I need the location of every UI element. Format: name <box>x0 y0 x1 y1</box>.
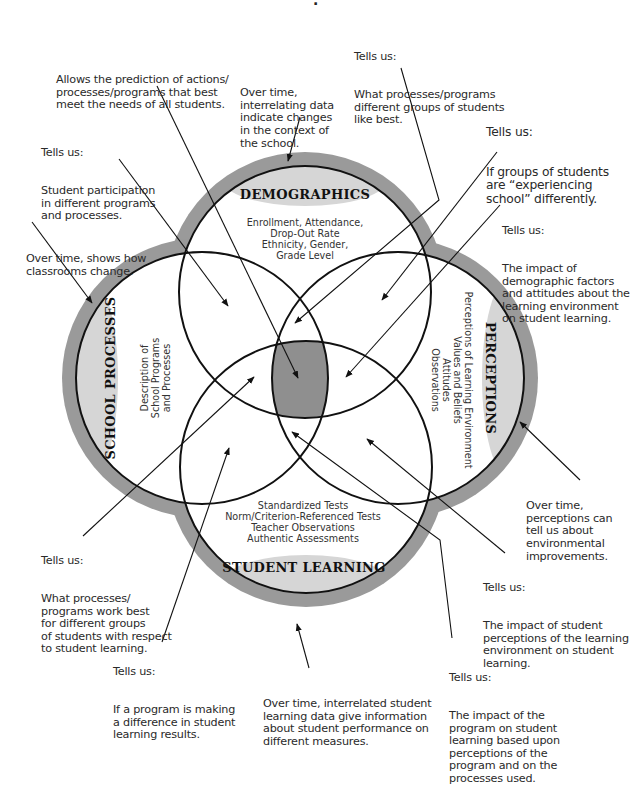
svg-text:Teacher Observations: Teacher Observations <box>250 522 355 533</box>
annotation-program-impact: Tells us: The impact of the program on s… <box>449 647 560 788</box>
svg-text:and Processes: and Processes <box>161 344 172 412</box>
svg-text:Description of: Description of <box>139 344 150 412</box>
svg-text:Enrollment, Attendance,: Enrollment, Attendance, <box>247 217 363 228</box>
annotation-program-difference: Tells us: If a program is making a diffe… <box>113 641 235 754</box>
svg-text:Values and Beliefs: Values and Beliefs <box>452 336 463 424</box>
svg-text:Standardized Tests: Standardized Tests <box>258 500 348 511</box>
svg-text:Authentic Assessments: Authentic Assessments <box>247 533 359 544</box>
annotation-programs-liked: Tells us: What processes/programs differ… <box>354 26 504 139</box>
school-processes-title: SCHOOL PROCESSES <box>103 296 118 459</box>
svg-text:Attitudes: Attitudes <box>441 358 452 401</box>
svg-text:Perceptions of Learning Enviro: Perceptions of Learning Environment <box>463 291 474 468</box>
annotation-classrooms-change: Over time, shows how classrooms change. <box>26 228 146 291</box>
svg-text:Drop-Out Rate: Drop-Out Rate <box>270 228 339 239</box>
arrow-perceptions-over-time <box>520 422 580 480</box>
school-processes-body: Description of School Programs and Proce… <box>139 338 172 418</box>
arrow-learning-over-time <box>297 624 309 668</box>
annotation-participation: Tells us: Student participation in diffe… <box>41 122 155 235</box>
perceptions-title: PERCEPTIONS <box>483 322 498 434</box>
annotation-prediction: Allows the prediction of actions/ proces… <box>56 49 229 125</box>
svg-text:Ethnicity, Gender,: Ethnicity, Gender, <box>262 239 349 250</box>
annotation-demographics-over-time: Over time, interrelating data indicate c… <box>240 62 334 163</box>
svg-text:Norm/Criterion-Referenced Test: Norm/Criterion-Referenced Tests <box>225 511 381 522</box>
demographics-title: DEMOGRAPHICS <box>240 187 370 202</box>
svg-text:Observations: Observations <box>430 348 441 411</box>
svg-text:Grade Level: Grade Level <box>276 250 334 261</box>
annotation-learning-over-time: Over time, interrelated student learning… <box>263 673 431 761</box>
svg-text:School Programs: School Programs <box>150 338 161 418</box>
annotation-demographic-impact: Tells us: The impact of demographic fact… <box>502 200 630 339</box>
student-learning-title: STUDENT LEARNING <box>222 560 385 575</box>
